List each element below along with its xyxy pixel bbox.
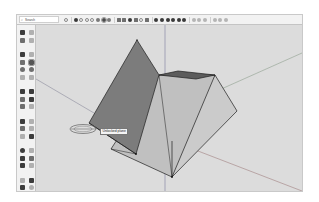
zoom-icon[interactable] [20, 156, 25, 161]
axes-icon[interactable] [20, 134, 25, 139]
rectangle-icon[interactable] [20, 60, 25, 65]
position-camera-icon[interactable] [29, 185, 34, 190]
rotated-rectangle-icon[interactable] [29, 60, 34, 65]
follow-me-icon[interactable] [29, 97, 34, 102]
scene-geometry [36, 25, 302, 191]
zoom-extents-icon[interactable] [96, 18, 100, 22]
toolbar-separator [19, 169, 35, 171]
vertex-marker [171, 176, 173, 178]
tape-measure-icon[interactable] [20, 119, 25, 124]
offset-icon[interactable] [29, 104, 34, 109]
circle-icon[interactable] [160, 18, 164, 22]
scale-icon[interactable] [122, 18, 126, 22]
walk-icon[interactable] [213, 18, 217, 22]
position-camera-icon[interactable] [224, 18, 228, 22]
freehand-icon[interactable] [182, 18, 186, 22]
eraser-icon[interactable] [29, 38, 34, 43]
toolbar-separator [210, 17, 211, 23]
tape-measure-icon[interactable] [139, 18, 143, 22]
toolbar-separator [19, 110, 35, 112]
orbit-icon[interactable] [79, 18, 83, 22]
model-viewport[interactable]: Unlocked plane [36, 25, 302, 191]
top-toolbar-icons [64, 16, 229, 24]
push-pull-icon[interactable] [29, 89, 34, 94]
select-icon[interactable] [20, 30, 25, 35]
freehand-icon[interactable] [29, 52, 34, 57]
arc-icon[interactable] [20, 75, 25, 80]
orbit-icon[interactable] [20, 148, 25, 153]
text-icon[interactable] [29, 126, 34, 131]
protractor-cursor-icon [70, 125, 96, 134]
polygon-icon[interactable] [166, 18, 170, 22]
line-icon[interactable] [20, 52, 25, 57]
move-icon[interactable] [20, 89, 25, 94]
follow-me-icon[interactable] [128, 18, 132, 22]
pie-icon[interactable] [29, 75, 34, 80]
pan-icon[interactable] [29, 148, 34, 153]
pan-icon[interactable] [85, 18, 89, 22]
arc-icon[interactable] [171, 18, 175, 22]
zoom-icon[interactable] [90, 18, 94, 22]
dimension-icon[interactable] [29, 119, 34, 124]
look-around-icon[interactable] [218, 18, 222, 22]
search-icon: ⌕ [21, 18, 23, 22]
rotate-icon[interactable] [20, 97, 25, 102]
vertex-marker [136, 39, 137, 40]
toolbar-separator [189, 17, 190, 23]
previous-view-icon[interactable] [29, 163, 34, 168]
axes-icon[interactable] [197, 18, 201, 22]
text-icon[interactable] [192, 18, 196, 22]
left-axis-line [36, 79, 94, 113]
rotate-icon[interactable] [117, 18, 121, 22]
toolbar-separator [152, 17, 153, 23]
push-pull-icon[interactable] [102, 18, 106, 22]
3d-text-icon[interactable] [29, 134, 34, 139]
section-plane-icon[interactable] [20, 185, 25, 190]
zoom-window-icon[interactable] [29, 156, 34, 161]
toolbar-separator [71, 17, 72, 23]
select-icon[interactable] [64, 18, 68, 22]
scale-icon[interactable] [20, 104, 25, 109]
circle-icon[interactable] [20, 67, 25, 72]
cursor-tooltip: Unlocked plane [100, 128, 128, 135]
search-value: Search [25, 18, 35, 22]
search-input[interactable]: ⌕ Search [19, 16, 59, 23]
vertex-marker [135, 153, 137, 155]
eraser-icon[interactable] [74, 18, 78, 22]
top-toolbar: ⌕ Search [17, 15, 302, 25]
protractor-icon[interactable] [20, 126, 25, 131]
move-icon[interactable] [107, 18, 111, 22]
component-icon[interactable] [29, 30, 34, 35]
toolbar-separator [19, 140, 35, 142]
toolbar-separator [114, 17, 115, 23]
paint-bucket-icon[interactable] [145, 18, 149, 22]
left-toolbar [17, 25, 36, 192]
look-around-icon[interactable] [29, 178, 34, 183]
offset-icon[interactable] [134, 18, 138, 22]
app-window: ⌕ Search [16, 14, 303, 192]
toolbar-separator [19, 81, 35, 83]
line-icon[interactable] [177, 18, 181, 22]
rectangle-icon[interactable] [154, 18, 158, 22]
walk-icon[interactable] [20, 178, 25, 183]
paint-bucket-icon[interactable] [20, 38, 25, 43]
section-plane-icon[interactable] [203, 18, 207, 22]
toolbar-separator [19, 44, 35, 46]
polygon-icon[interactable] [29, 67, 34, 72]
zoom-extents-icon[interactable] [20, 163, 25, 168]
